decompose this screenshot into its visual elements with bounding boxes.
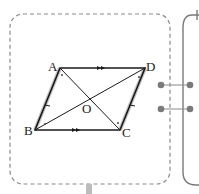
- diagonal-bd: [35, 68, 145, 130]
- label-c: C: [122, 125, 131, 140]
- label-o: O: [82, 101, 91, 116]
- parallel-arrow-bc: [72, 128, 80, 132]
- parallel-arrow-ad: [97, 66, 105, 70]
- right-panel-border: [183, 15, 199, 185]
- bottom-connector: [86, 184, 92, 194]
- label-d: D: [146, 59, 155, 74]
- label-b: B: [24, 123, 33, 138]
- parallelogram-diagram: A D B C O: [0, 0, 199, 194]
- connector-links: [158, 82, 194, 113]
- label-a: A: [48, 59, 58, 74]
